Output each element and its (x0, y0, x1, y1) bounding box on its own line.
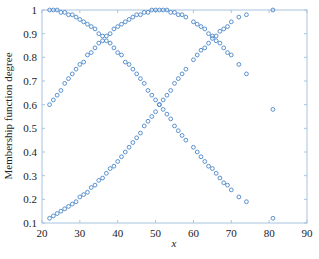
x-tick-label: 40 (112, 227, 124, 239)
x-tick-label: 30 (74, 227, 86, 239)
y-tick-label: 0.3 (23, 170, 37, 182)
y-tick-label: 0.8 (23, 51, 37, 63)
x-axis-label: x (171, 237, 177, 249)
scatter-chart: 2030405060708090 0.10.20.30.40.50.60.70.… (0, 0, 319, 259)
x-tick-label: 90 (302, 227, 314, 239)
x-tick-label: 50 (150, 227, 162, 239)
y-axis-label: Membership function degree (2, 52, 14, 179)
x-tick-label: 60 (188, 227, 200, 239)
y-tick-label: 1 (32, 4, 38, 16)
axes-box (42, 10, 307, 223)
x-tick-label: 20 (37, 227, 49, 239)
y-tick-label: 0.7 (23, 75, 37, 87)
x-tick-label: 80 (264, 227, 276, 239)
x-tick-label: 70 (226, 227, 238, 239)
y-tick-label: 0.6 (23, 99, 37, 111)
y-tick-label: 0.2 (23, 193, 37, 205)
y-tick-label: 0.1 (23, 217, 37, 229)
y-tick-label: 0.5 (23, 122, 37, 134)
plot-area (42, 10, 307, 223)
y-tick-label: 0.9 (23, 28, 37, 40)
y-tick-label: 0.4 (23, 146, 37, 158)
